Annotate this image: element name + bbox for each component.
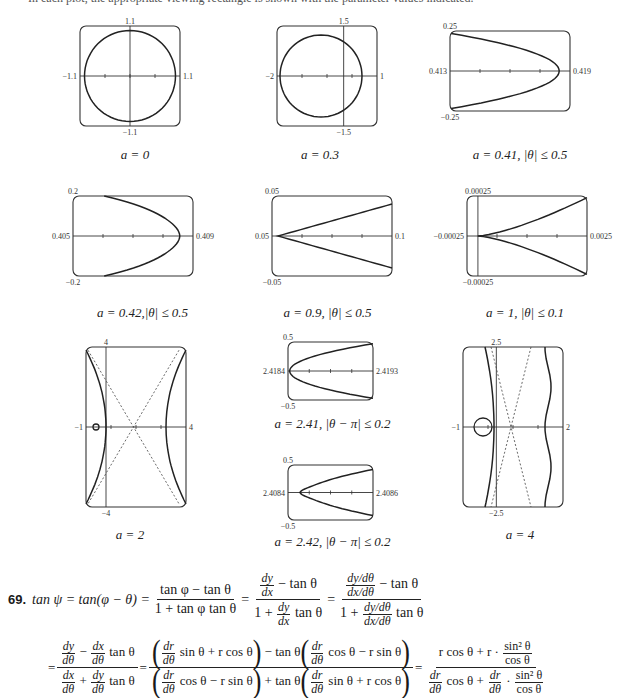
tick-label-right: 0.1 — [395, 232, 405, 241]
tick-label-top: 0.5 — [283, 456, 293, 465]
tick-label-right: 2 — [566, 423, 570, 432]
tick-label-top: 0.2 — [68, 187, 78, 196]
tick-label-right: 2.4086 — [376, 489, 398, 498]
tick-label-bottom: −1.5 — [336, 128, 351, 137]
tick-label-bottom: −0.05 — [263, 278, 282, 287]
tick-label-top: 0.5 — [283, 333, 293, 342]
tick-label-top: 1.1 — [125, 17, 135, 26]
fraction-dydtheta: dydθ − dxdθ tan θ dxdθ + dydθ tan θ — [57, 640, 137, 695]
caption-a-2.41: a = 2.41, |θ − π| ≤ 0.2 — [245, 416, 420, 432]
tick-label-left: 0.413 — [429, 67, 447, 76]
tick-label-right: 4 — [189, 423, 193, 432]
tick-label-right: 1.1 — [183, 72, 193, 81]
plot-a-0.41: 0.4130.4190.25−0.25 — [415, 18, 595, 127]
tick-label-right: 0.409 — [196, 232, 214, 241]
caption-a-0.41: a = 0.41, |θ| ≤ 0.5 — [430, 147, 610, 163]
fraction-dydx: dydx − tan θ 1 + dydx tan θ — [251, 572, 325, 627]
tick-label-left: −0.00025 — [433, 232, 464, 241]
tick-label-bottom: −1.1 — [123, 128, 138, 137]
tick-label-left: −1.1 — [62, 72, 77, 81]
tick-label-bottom: −0.5 — [281, 522, 296, 531]
tick-label-right: 1 — [380, 72, 384, 81]
caption-a-0.9: a = 0.9, |θ| ≤ 0.5 — [240, 305, 415, 321]
tick-label-bottom: −0.2 — [66, 278, 81, 287]
tick-label-top: 4 — [104, 338, 108, 347]
tick-label-top: 0.25 — [443, 22, 457, 31]
tick-label-right: 0.0025 — [590, 232, 612, 241]
caption-a-1: a = 1, |θ| ≤ 0.1 — [445, 305, 605, 321]
fraction-expanded: (drdθ sin θ + r cos θ) − tan θ(drdθ cos … — [149, 640, 413, 695]
plot-a-0.9: 0.050.10.05−0.05 — [240, 183, 400, 297]
caption-a-2.42: a = 2.42, |θ − π| ≤ 0.2 — [245, 534, 420, 550]
caption-a-0: a = 0 — [70, 147, 200, 163]
caption-a-0.3: a = 0.3 — [265, 147, 375, 163]
truncated-text-line: In each plot, the appropriate viewing re… — [28, 0, 474, 6]
fraction-param: dy/dθdx/dθ − tan θ 1 + dy/dθdx/dθ tan θ — [337, 572, 426, 627]
problem-69-line-2: = dydθ − dxdθ tan θ dxdθ + dydθ tan θ = … — [48, 640, 549, 695]
caption-a-2: a = 2 — [80, 527, 180, 543]
tick-label-left: 2.4184 — [263, 367, 285, 376]
fraction-tan: tan φ − tan θ 1 + tan φ tan θ — [152, 582, 239, 617]
problem-69-line-1: 69. tan ψ = tan(φ − θ) = tan φ − tan θ 1… — [8, 572, 428, 627]
lhs: tan ψ = tan(φ − θ) = — [32, 592, 150, 608]
tick-label-right: 2.4193 — [376, 367, 398, 376]
plot-a-2.41: 2.41842.41930.5−0.5 — [250, 340, 410, 418]
caption-a-0.42: a = 0.42,|θ| ≤ 0.5 — [55, 305, 230, 321]
tick-label-left: 0.405 — [52, 232, 70, 241]
tick-label-bottom: −2.5 — [489, 509, 504, 518]
plot-a-0.3: −211.5−1.5 — [265, 18, 375, 134]
fraction-simplified: r cos θ + r · sin² θcos θ drdθ cos θ + d… — [424, 640, 547, 695]
tick-label-bottom: −0.00025 — [463, 278, 494, 287]
tick-label-bottom: −0.25 — [441, 113, 460, 122]
tick-label-top: 0.05 — [265, 187, 279, 196]
tick-label-bottom: −4 — [102, 509, 111, 518]
tick-label-top: 2.5 — [491, 338, 501, 347]
tick-label-bottom: −0.5 — [281, 402, 296, 411]
caption-a-4: a = 4 — [470, 527, 570, 543]
plot-a-0: −1.11.11.1−1.1 — [70, 18, 200, 134]
tick-label-left: 0.05 — [255, 232, 269, 241]
plot-a-1: −0.000250.00250.00025−0.00025 — [415, 183, 615, 297]
plot-a-0.42: 0.4050.4090.2−0.2 — [45, 183, 220, 297]
tick-label-top: 1.5 — [339, 17, 349, 26]
tick-label-right: 0.419 — [573, 67, 591, 76]
tick-label-top: 0.00025 — [465, 187, 491, 196]
tick-label-left: −1 — [74, 423, 83, 432]
problem-number: 69. — [8, 592, 26, 607]
plot-a-4: −122.5−2.5 — [448, 339, 578, 523]
tick-label-left: −2 — [265, 72, 274, 81]
plot-a-2: −144−4 — [60, 339, 200, 523]
tick-label-left: 2.4084 — [263, 489, 285, 498]
plot-a-2.42: 2.40842.40860.5−0.5 — [250, 455, 410, 533]
tick-label-left: −1 — [451, 423, 460, 432]
